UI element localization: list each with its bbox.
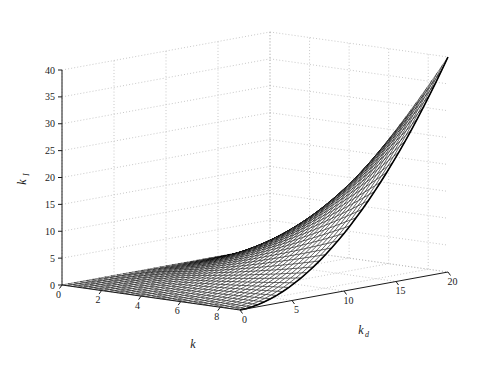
z-tick-label: 35	[45, 91, 55, 102]
z-tick-label: 5	[50, 253, 55, 264]
x-axis-label: k	[190, 337, 196, 351]
y-tick-label: 10	[344, 295, 354, 306]
z-axis-label-base: k	[15, 179, 29, 185]
y-tick-label: 5	[294, 304, 299, 315]
plot-canvas: 0510152025303540 02468 05101520 k I k k …	[0, 0, 482, 374]
x-axis-label-text: k	[190, 337, 196, 351]
y-tick-label: 0	[242, 314, 247, 325]
figure-3d-surface-plot: 0510152025303540 02468 05101520 k I k k …	[0, 0, 482, 374]
z-tick-label: 15	[45, 199, 55, 210]
x-tick-label: 4	[135, 300, 140, 311]
x-tick-label: 8	[214, 311, 219, 322]
y-tick-label: 20	[448, 276, 458, 287]
x-tick-label: 0	[56, 289, 61, 300]
z-tick-label: 25	[45, 145, 55, 156]
figure-background	[0, 0, 482, 374]
y-axis-label-base: k	[358, 323, 364, 337]
z-tick-label: 40	[45, 65, 55, 76]
z-axis-label-subscript: I	[22, 173, 31, 177]
x-tick-label: 2	[96, 294, 101, 305]
z-tick-label: 30	[45, 118, 55, 129]
z-tick-label: 0	[50, 280, 55, 291]
z-tick-label: 10	[45, 226, 55, 237]
z-tick-label: 20	[45, 172, 55, 183]
x-tick-label: 6	[175, 305, 180, 316]
y-tick-label: 15	[396, 285, 406, 296]
